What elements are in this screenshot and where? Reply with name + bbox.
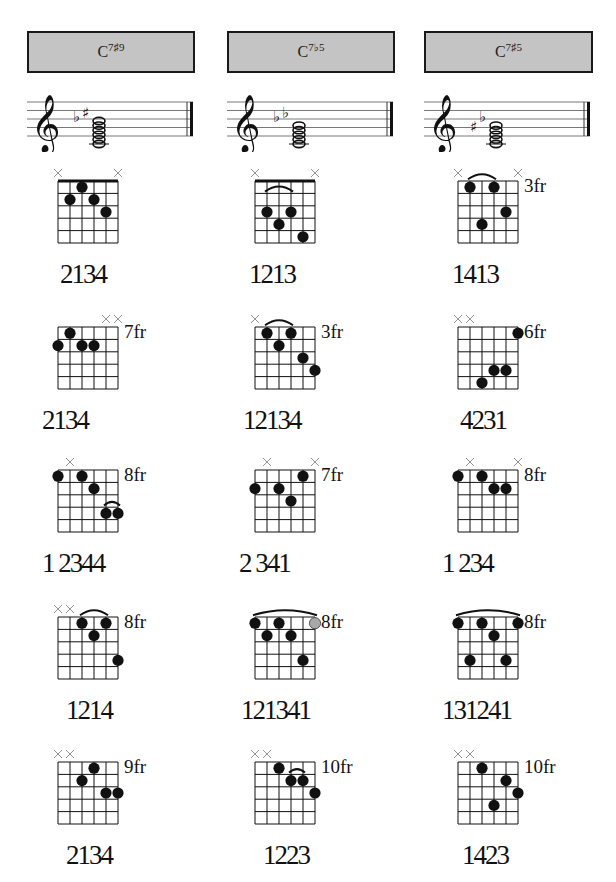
mute-x-icon	[514, 458, 522, 466]
accidental-icon: ♯	[82, 104, 89, 122]
fingering-label: 1 2344	[42, 548, 104, 579]
finger-dot-icon	[52, 471, 63, 482]
mute-x-icon	[251, 315, 259, 323]
mute-x-icon	[66, 750, 74, 758]
chord-diagram-3-5: 10fr1423	[438, 740, 616, 870]
mute-x-icon	[454, 315, 462, 323]
finger-dot-icon	[88, 630, 99, 641]
finger-dot-icon	[249, 618, 260, 629]
finger-dot-icon	[488, 365, 499, 376]
finger-dot-icon	[500, 206, 511, 217]
fingering-label: 2134	[42, 405, 88, 436]
barre-arc-icon	[265, 320, 293, 325]
fingering-label: 2 341	[239, 548, 290, 579]
fret-position-label: 6fr	[524, 321, 546, 343]
finger-dot-icon	[309, 787, 320, 798]
chord-diagram-3-2: 6fr4231	[438, 305, 616, 435]
mute-x-icon	[251, 169, 259, 177]
finger-dot-icon	[476, 377, 487, 388]
mute-x-icon	[311, 458, 319, 466]
accidental-icon: ♭	[282, 104, 289, 122]
barre-arc-icon	[80, 610, 108, 615]
finger-dot-icon	[512, 787, 523, 798]
finger-dot-icon	[285, 775, 296, 786]
finger-dot-icon	[249, 483, 260, 494]
mute-x-icon	[251, 750, 259, 758]
finger-dot-icon	[100, 787, 111, 798]
finger-dot-icon	[297, 231, 308, 242]
finger-dot-icon	[285, 206, 296, 217]
finger-dot-icon	[476, 471, 487, 482]
mute-x-icon	[54, 750, 62, 758]
finger-dot-icon	[297, 775, 308, 786]
accidental-icon: ♯	[470, 118, 477, 136]
chord-diagram-1-1: 2134	[38, 159, 218, 289]
finger-dot-icon	[76, 182, 87, 193]
finger-dot-icon	[285, 495, 296, 506]
chord-diagram-1-3: 8fr1 2344	[38, 448, 218, 578]
fret-position-label: 8fr	[124, 611, 146, 633]
finger-dot-icon	[500, 655, 511, 666]
chord-diagram-3-4: 8fr131241	[438, 595, 616, 725]
mute-x-icon	[114, 315, 122, 323]
finger-dot-icon	[88, 763, 99, 774]
finger-dot-icon	[488, 483, 499, 494]
finger-dot-icon	[512, 618, 523, 629]
treble-clef-icon: 𝄞	[428, 94, 458, 152]
fret-position-label: 8fr	[524, 611, 546, 633]
fingering-label: 1413	[452, 259, 498, 290]
finger-dot-icon	[273, 763, 284, 774]
mute-x-icon	[514, 169, 522, 177]
treble-clef-icon: 𝄞	[231, 94, 261, 152]
staff-1: 𝄞♭♯	[27, 88, 197, 152]
mute-x-icon	[466, 750, 474, 758]
fret-position-label: 9fr	[124, 756, 146, 778]
chord-diagram-3-3: 8fr1 234	[438, 448, 616, 578]
mute-x-icon	[102, 315, 110, 323]
chord-name-2: C7♭5	[298, 43, 325, 61]
mute-x-icon	[466, 315, 474, 323]
mute-x-icon	[466, 458, 474, 466]
finger-dot-icon	[452, 471, 463, 482]
finger-dot-icon	[88, 194, 99, 205]
finger-dot-icon	[285, 630, 296, 641]
finger-dot-icon	[76, 340, 87, 351]
fingering-label: 2134	[60, 259, 106, 290]
finger-dot-icon	[488, 800, 499, 811]
mute-x-icon	[263, 750, 271, 758]
finger-dot-icon	[476, 618, 487, 629]
finger-dot-icon	[112, 787, 123, 798]
finger-dot-icon	[297, 352, 308, 363]
mute-x-icon	[114, 169, 122, 177]
finger-dot-icon	[500, 775, 511, 786]
finger-dot-icon	[476, 219, 487, 230]
finger-dot-icon	[273, 340, 284, 351]
fingering-label: 1 234	[442, 548, 493, 579]
staff-3: 𝄞♯♭	[424, 88, 594, 152]
fingering-label: 12134	[243, 405, 301, 436]
finger-dot-icon	[309, 365, 320, 376]
staff-2: 𝄞♭♭	[227, 88, 397, 152]
fingering-label: 1214	[66, 695, 112, 726]
fingering-label: 131241	[442, 695, 511, 726]
finger-dot-icon	[100, 206, 111, 217]
mute-x-icon	[66, 605, 74, 613]
finger-dot-icon	[297, 655, 308, 666]
finger-dot-icon	[100, 618, 111, 629]
barre-arc-icon	[456, 610, 520, 615]
fingering-label: 4231	[460, 405, 506, 436]
chord-diagram-3-1: 3fr1413	[438, 159, 616, 289]
mute-x-icon	[454, 750, 462, 758]
chord-diagram-1-4: 8fr1214	[38, 595, 218, 725]
finger-dot-icon	[88, 340, 99, 351]
chord-diagram-1-2: 7fr2134	[38, 305, 218, 435]
fret-position-label: 7fr	[124, 321, 146, 343]
finger-dot-icon	[500, 365, 511, 376]
chord-diagram-1-5: 9fr2134	[38, 740, 218, 870]
finger-dot-icon	[512, 328, 523, 339]
mute-x-icon	[311, 169, 319, 177]
chord-header-1: C7♯9	[27, 31, 195, 73]
finger-dot-icon	[112, 508, 123, 519]
chord-header-2: C7♭5	[227, 31, 395, 73]
finger-dot-icon	[76, 471, 87, 482]
